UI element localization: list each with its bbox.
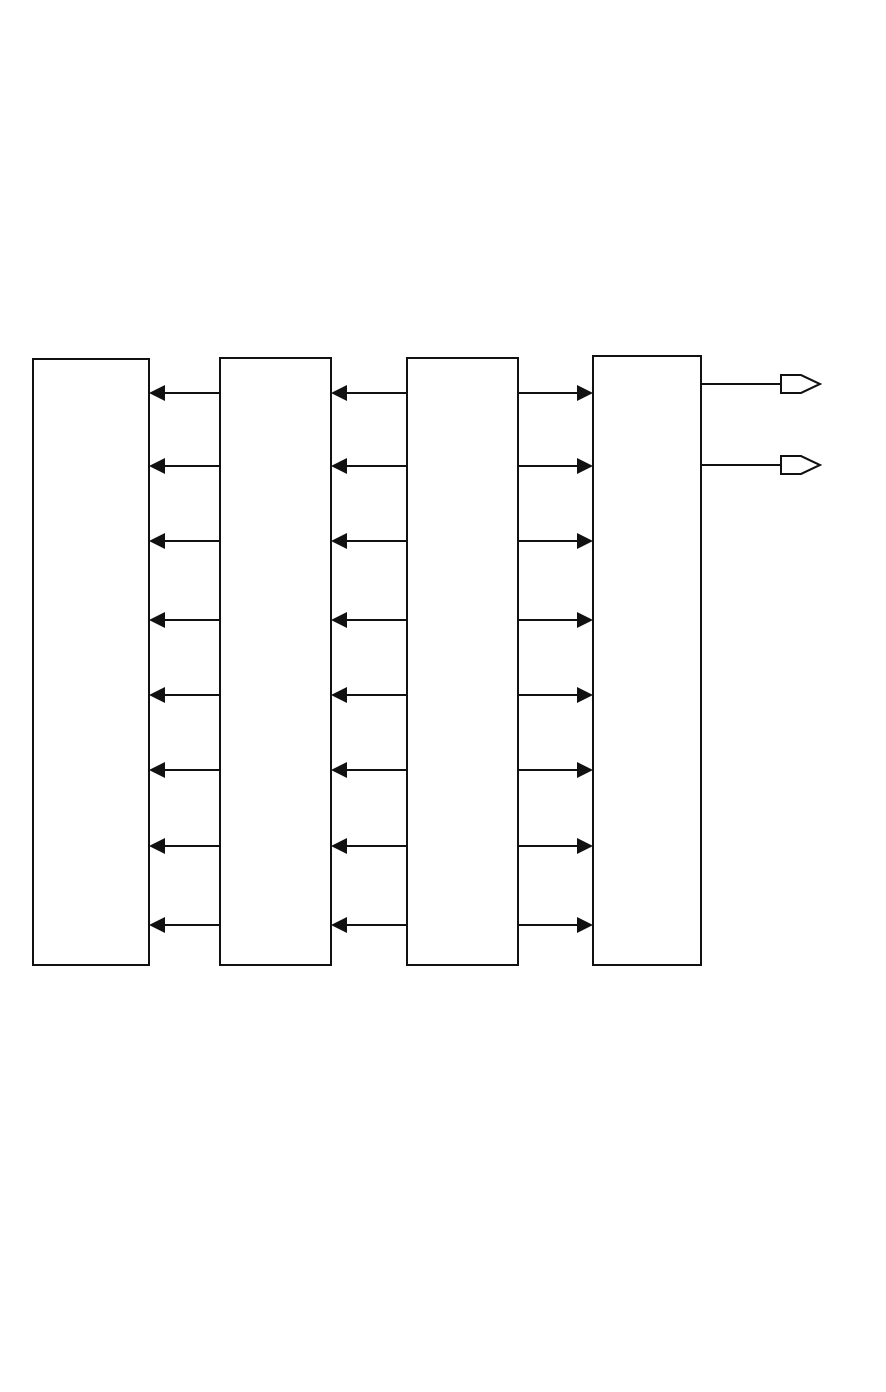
arrow-left-icon xyxy=(149,687,165,703)
arrow-right-icon xyxy=(577,917,593,933)
arrow-left-icon xyxy=(149,533,165,549)
r2r-ladder-block xyxy=(33,359,149,965)
arrow-left-icon xyxy=(149,385,165,401)
arrow-left-icon xyxy=(331,612,347,628)
analogue-switches-block xyxy=(220,358,331,965)
arrow-right-icon xyxy=(577,385,593,401)
arrow-left-icon xyxy=(149,458,165,474)
register-to-switches-lines xyxy=(331,385,407,933)
data-bus-bit-0 xyxy=(701,375,820,393)
arrow-left-icon xyxy=(149,917,165,933)
arrow-right-icon xyxy=(577,533,593,549)
output-buffers-block xyxy=(593,356,701,965)
arrow-left-icon xyxy=(149,838,165,854)
output-port-icon xyxy=(781,456,820,474)
arrow-right-icon xyxy=(577,458,593,474)
switches-to-ladder-lines xyxy=(149,385,220,933)
arrow-left-icon xyxy=(149,762,165,778)
arrow-right-icon xyxy=(577,687,593,703)
arrow-left-icon xyxy=(331,687,347,703)
adc-block-diagram xyxy=(0,0,886,1392)
arrow-left-icon xyxy=(149,612,165,628)
arrow-right-icon xyxy=(577,762,593,778)
arrow-left-icon xyxy=(331,533,347,549)
register-block xyxy=(407,358,518,965)
arrow-left-icon xyxy=(331,385,347,401)
data-bus-bit-1 xyxy=(701,456,820,474)
arrow-right-icon xyxy=(577,612,593,628)
arrow-left-icon xyxy=(331,762,347,778)
output-port-icon xyxy=(781,375,820,393)
data-bus-outputs xyxy=(701,375,820,509)
arrow-left-icon xyxy=(331,838,347,854)
arrow-left-icon xyxy=(331,458,347,474)
arrow-left-icon xyxy=(331,917,347,933)
arrow-right-icon xyxy=(577,838,593,854)
register-to-buffers-lines xyxy=(518,385,593,933)
